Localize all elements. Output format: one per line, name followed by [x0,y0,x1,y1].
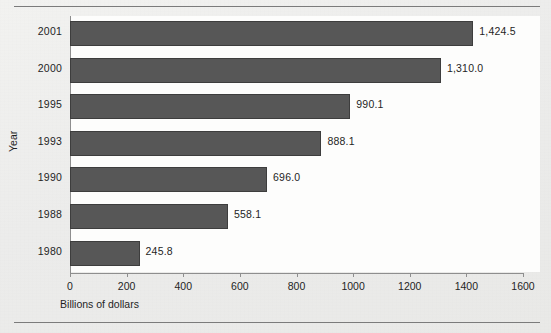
bar-row: 1995990.1 [0,89,551,126]
x-tick-label: 1000 [341,280,364,292]
bar-value-label: 1,310.0 [447,62,483,74]
bar[interactable] [70,21,473,46]
bar-value-label: 888.1 [327,135,354,147]
bar-chart: 20011,424.520001,310.01995990.11993888.1… [0,0,551,333]
x-tick-mark [410,273,411,277]
category-label: 1988 [0,208,62,220]
x-tick-label: 600 [231,280,249,292]
bar[interactable] [70,167,267,192]
x-tick-mark [127,273,128,277]
bar[interactable] [70,58,441,83]
category-label: 1995 [0,98,62,110]
x-tick-label: 1200 [398,280,421,292]
bar-value-label: 990.1 [356,98,383,110]
category-label: 2000 [0,62,62,74]
bar[interactable] [70,204,228,229]
x-tick-label: 0 [67,280,73,292]
category-label: 2001 [0,25,62,37]
bar-value-label: 696.0 [273,171,300,183]
x-tick-mark [240,273,241,277]
y-axis-label: Year [7,131,19,152]
bar-value-label: 558.1 [234,208,261,220]
x-tick-mark [70,273,71,277]
category-label: 1980 [0,245,62,257]
x-axis-label: Billions of dollars [0,298,551,310]
bar-value-label: 1,424.5 [479,25,515,37]
x-tick-mark [466,273,467,277]
bar-row: 20001,310.0 [0,53,551,90]
category-label: 1990 [0,171,62,183]
bar[interactable] [70,94,350,119]
bar[interactable] [70,241,140,266]
bar[interactable] [70,131,321,156]
x-axis-label-text: Billions of dollars [60,298,139,310]
x-tick-mark [523,273,524,277]
x-tick-mark [353,273,354,277]
x-tick-mark [183,273,184,277]
x-tick-label: 200 [118,280,136,292]
bar-row: 1980245.8 [0,236,551,273]
x-tick-label: 1400 [455,280,478,292]
bar-row: 1990696.0 [0,162,551,199]
x-tick-label: 1600 [511,280,534,292]
bar-value-label: 245.8 [146,245,173,257]
bar-row: 1988558.1 [0,199,551,236]
x-tick-label: 400 [174,280,192,292]
x-tick-mark [297,273,298,277]
bar-row: 20011,424.5 [0,16,551,53]
bar-row: 1993888.1 [0,126,551,163]
x-tick-label: 800 [288,280,306,292]
